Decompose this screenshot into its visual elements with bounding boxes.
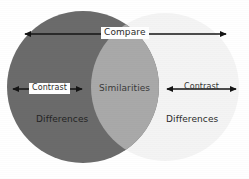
venn-diagram: Compare Contrast Contrast Similarities D… <box>0 0 249 179</box>
similarities-label: Similarities <box>99 84 150 93</box>
contrast-left-label: Contrast <box>29 83 70 94</box>
differences-right-label: Differences <box>166 115 218 124</box>
contrast-right-label: Contrast <box>184 83 219 91</box>
compare-label: Compare <box>101 27 149 39</box>
differences-left-label: Differences <box>36 115 88 124</box>
